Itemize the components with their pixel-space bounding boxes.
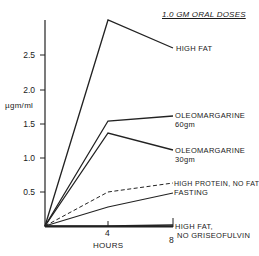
y-axis-label: µgm/ml <box>5 101 33 110</box>
chart-title: 1.0 GM ORAL DOSES <box>162 10 246 19</box>
legend-no-griseofulvin-line2: NO GRISEOFULVIN <box>177 231 250 240</box>
chart-plot <box>0 0 259 256</box>
legend-no-griseofulvin-line1: HIGH FAT, <box>175 222 213 231</box>
legend-high-fat: HIGH FAT <box>176 44 212 53</box>
legend-oleomargarine-30-line2: 30gm <box>175 155 195 164</box>
y-tick-label: 0.5 <box>13 187 35 197</box>
series-high-fat-no-griseofulvin <box>45 225 173 226</box>
x-tick-label: 8 <box>169 236 174 245</box>
legend-oleomargarine-60-line2: 60gm <box>175 120 195 129</box>
y-tick-label: 2.5 <box>13 50 35 60</box>
series-oleomargarine-60gm <box>45 116 173 226</box>
x-tick-label: 4 <box>105 229 110 238</box>
y-ticks <box>40 55 45 192</box>
series-high-protein-no-fat <box>45 183 173 226</box>
legend-high-protein: HIGH PROTEIN, NO FAT <box>174 179 259 188</box>
legend-fasting: FASTING <box>174 188 208 197</box>
y-tick-label: 1.0 <box>13 153 35 163</box>
legend-oleomargarine-60-line1: OLEOMARGARINE <box>175 111 245 120</box>
y-tick-label: 2.0 <box>13 85 35 95</box>
x-axis-label: HOURS <box>93 241 123 250</box>
series-oleomargarine-30gm <box>45 133 173 226</box>
legend-oleomargarine-30-line1: OLEOMARGARINE <box>175 146 245 155</box>
y-tick-label: 1.5 <box>13 119 35 129</box>
